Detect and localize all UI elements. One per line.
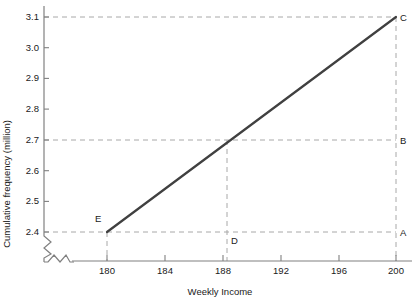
y-tick-label-2.5: 2.5 (8, 197, 39, 207)
annotation-point-c: C (400, 13, 407, 23)
y-tick-label-2.9: 2.9 (8, 74, 39, 84)
chart-plot-area (0, 0, 416, 302)
x-tick-label-180: 180 (99, 266, 115, 276)
data-line-series-cumulative-frequency (107, 17, 396, 232)
x-tick-label-192: 192 (273, 266, 289, 276)
annotation-point-b: B (400, 136, 406, 146)
y-axis-break-icon (44, 232, 51, 262)
x-tick-label-196: 196 (331, 266, 347, 276)
x-tick-label-200: 200 (388, 266, 404, 276)
x-axis-title: Weekly Income (188, 287, 253, 297)
y-tick-label-2.4: 2.4 (8, 227, 39, 237)
y-tick-label-2.6: 2.6 (8, 166, 39, 176)
x-tick-label-184: 184 (157, 266, 173, 276)
y-tick-label-2.7: 2.7 (8, 135, 39, 145)
y-axis-title: Cumulative frequency (million) (2, 120, 12, 248)
x-tick-label-188: 188 (215, 266, 231, 276)
y-tick-label-3.1: 3.1 (8, 12, 39, 22)
x-axis-ticks (107, 255, 396, 261)
annotation-point-e: E (95, 214, 101, 224)
y-tick-label-2.8: 2.8 (8, 104, 39, 114)
y-tick-label-3.0: 3.0 (8, 43, 39, 53)
annotation-point-d: D (231, 236, 238, 246)
y-axis-ticks (44, 17, 49, 232)
annotation-point-a: A (400, 228, 406, 238)
chart-figure: 3.1 3.0 2.9 2.8 2.7 2.6 2.5 2.4 180 184 … (0, 0, 416, 302)
